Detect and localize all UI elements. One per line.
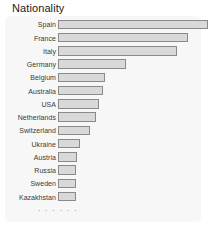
bar-track [58, 112, 208, 122]
bar-track [58, 139, 208, 149]
bar-row-label: France [34, 35, 56, 42]
bar-row-label: Russia [34, 167, 56, 174]
bar [58, 33, 188, 43]
bar [58, 86, 103, 96]
bar-row-label: Netherlands [18, 114, 56, 121]
bar-row: Netherlands [0, 112, 214, 125]
bar-row-label: Belgium [30, 74, 56, 81]
bar-row-label: Switzerland [19, 127, 56, 134]
bar [58, 126, 90, 136]
bar-row-label: USA [41, 101, 56, 108]
bar-track [58, 33, 208, 43]
bar [58, 73, 105, 83]
bar-track [58, 59, 208, 69]
bar-row-label: Ukraine [32, 141, 56, 148]
bar-row: Kazakhstan [0, 191, 214, 204]
bar-row-label: Kazakhstan [19, 194, 56, 201]
bar [58, 165, 76, 175]
bar-track [58, 192, 208, 202]
bar [58, 46, 177, 56]
bar-track [58, 126, 208, 136]
bar-column-ellipsis: · · · [60, 207, 78, 214]
page-title: Nationality [12, 2, 64, 14]
bar-row-label: Australia [28, 88, 56, 95]
bar-track [58, 46, 208, 56]
bar-track [58, 152, 208, 162]
bar-track [58, 73, 208, 83]
bar [58, 99, 99, 109]
bar [58, 20, 208, 30]
nationality-bar-chart: Nationality SpainFranceItalyGermanyBelgi… [0, 0, 214, 227]
bar-row: Russia [0, 165, 214, 178]
bar [58, 192, 76, 202]
bar-row-label: Sweden [30, 180, 56, 187]
bar-row: Italy [0, 46, 214, 59]
bar [58, 112, 96, 122]
bar-row: Austria [0, 152, 214, 165]
bar-row-label: Germany [27, 61, 56, 68]
bar [58, 139, 80, 149]
bar-track [58, 179, 208, 189]
bar-row: France [0, 32, 214, 45]
bar-row-label: Austria [34, 154, 56, 161]
bar-row-label: Spain [38, 21, 56, 28]
bar-track [58, 86, 208, 96]
bar-row: USA [0, 99, 214, 112]
bar-row-label: Italy [43, 48, 56, 55]
bar-row: Ukraine [0, 138, 214, 151]
bar-row: Belgium [0, 72, 214, 85]
bar-row: Spain [0, 19, 214, 32]
bar [58, 179, 76, 189]
truncation-row: · · · · · · [0, 207, 214, 219]
bar-row: Sweden [0, 178, 214, 191]
bar-row: Germany [0, 59, 214, 72]
bar [58, 152, 77, 162]
bar-row: Switzerland [0, 125, 214, 138]
bar-rows-container: SpainFranceItalyGermanyBelgiumAustraliaU… [0, 19, 214, 205]
bar-row: Australia [0, 85, 214, 98]
bar-track [58, 165, 208, 175]
bar [58, 59, 126, 69]
bar-track [58, 99, 208, 109]
bar-track [58, 20, 208, 30]
label-column-ellipsis: · · · [38, 207, 56, 214]
